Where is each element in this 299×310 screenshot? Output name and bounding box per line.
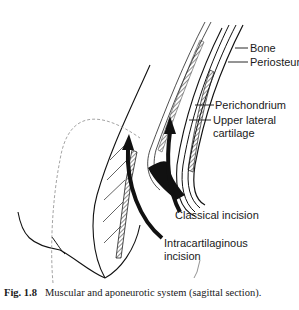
classical-incision-arrow [168, 132, 180, 212]
label-intracartilaginous-line2: incision [164, 250, 201, 262]
figure-number: Fig. 1.8 [4, 287, 37, 298]
lip-fold [52, 237, 65, 254]
scribble-mark [194, 260, 200, 278]
figure-caption-text: Muscular and aponeurotic system (sagitta… [45, 287, 261, 298]
arrowhead-classical [164, 116, 176, 134]
label-upper-lateral-line2: cartilage [213, 127, 255, 139]
upper-lateral-cartilage [188, 70, 214, 172]
label-upper-lateral-line1: Upper lateral [213, 114, 276, 126]
arrowhead-intracartilaginous [122, 134, 134, 150]
lip-outline [18, 212, 105, 278]
label-intracartilaginous-line1: Intracartilaginous [164, 237, 248, 249]
anatomical-figure: Bone Periosteum Perichondrium Upper late… [0, 0, 299, 310]
label-classical-incision: Classical incision [175, 209, 259, 221]
label-perichondrium: Perichondrium [215, 99, 286, 111]
figure-caption: Fig. 1.8Muscular and aponeurotic system … [4, 287, 261, 298]
label-periosteum: Periosteum [250, 56, 299, 68]
label-bone: Bone [250, 42, 276, 54]
